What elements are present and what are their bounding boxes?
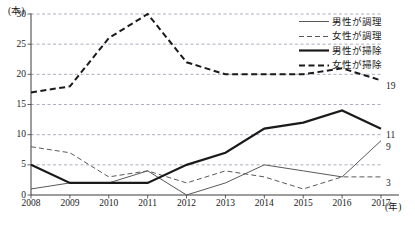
legend-label: 男性が調理 bbox=[332, 17, 382, 27]
x-tick-label: 2014 bbox=[244, 199, 284, 209]
y-tick-label: 15 bbox=[0, 100, 26, 110]
legend-item-3[interactable]: 女性が掃除 bbox=[299, 60, 382, 71]
series-end-label-1: 3 bbox=[386, 179, 391, 189]
legend-item-2[interactable]: 男性が掃除 bbox=[299, 45, 382, 56]
x-tick-label: 2008 bbox=[11, 199, 51, 209]
x-tick-label: 2017 bbox=[361, 199, 401, 209]
line-chart: (本) (年) 051015202530 2008200920102011201… bbox=[0, 0, 415, 234]
series-end-label-3: 19 bbox=[386, 82, 396, 92]
x-tick-label: 2013 bbox=[205, 199, 245, 209]
legend-label: 女性が掃除 bbox=[332, 60, 382, 70]
y-tick-label: 20 bbox=[0, 70, 26, 80]
series-line-2 bbox=[31, 111, 381, 183]
y-tick-label: 10 bbox=[0, 130, 26, 140]
y-tick-label: 25 bbox=[0, 40, 26, 50]
legend-line-swatch-icon bbox=[299, 46, 329, 55]
legend-line-swatch-icon bbox=[299, 17, 329, 26]
legend-item-1[interactable]: 女性が調理 bbox=[299, 31, 382, 42]
x-tick-label: 2009 bbox=[50, 199, 90, 209]
legend-label: 女性が調理 bbox=[332, 31, 382, 41]
y-tick-label: 5 bbox=[0, 160, 26, 170]
legend-line-swatch-icon bbox=[299, 32, 329, 41]
x-tick-label: 2015 bbox=[283, 199, 323, 209]
x-tick-label: 2012 bbox=[167, 199, 207, 209]
chart-legend: 男性が調理女性が調理男性が掃除女性が掃除 bbox=[299, 16, 382, 71]
x-tick-label: 2010 bbox=[89, 199, 129, 209]
legend-item-0[interactable]: 男性が調理 bbox=[299, 16, 382, 27]
series-line-0 bbox=[31, 141, 381, 195]
legend-line-swatch-icon bbox=[299, 61, 329, 70]
series-end-label-2: 11 bbox=[386, 131, 395, 141]
x-tick-label: 2016 bbox=[322, 199, 362, 209]
x-tick-label: 2011 bbox=[128, 199, 168, 209]
series-end-label-0: 9 bbox=[386, 143, 391, 153]
legend-label: 男性が掃除 bbox=[332, 46, 382, 56]
y-tick-label: 30 bbox=[0, 10, 26, 20]
